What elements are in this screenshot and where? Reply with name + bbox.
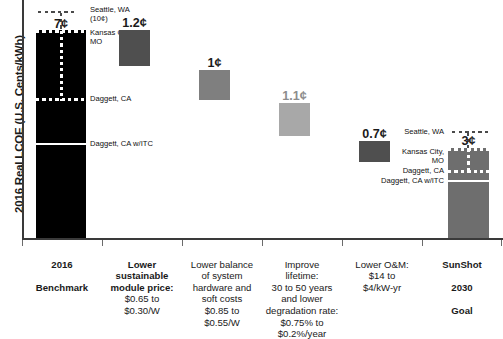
goal-marker-kansas-city: [448, 148, 489, 151]
category-module-price-body: $0.65 to $0.30/W: [124, 293, 160, 316]
x-axis-tick: [501, 240, 502, 246]
category-om-body: Lower O&M: $14 to $4/kW-yr: [355, 259, 408, 293]
value-label-module-price: 1.2¢: [109, 16, 160, 30]
category-benchmark-line2: Benchmark: [22, 282, 102, 294]
bar-lower-bos-soft-costs: [199, 70, 230, 100]
category-label-om: Lower O&M: $14 to $4/kW-yr: [342, 247, 422, 293]
value-label-benchmark: 7¢: [36, 17, 86, 31]
x-axis-tick: [262, 240, 263, 246]
value-label-lifetime: 1.1¢: [269, 89, 320, 103]
annotation-benchmark-daggett-itc: Daggett, CA w/ITC: [90, 139, 153, 148]
benchmark-marker-daggett-itc: [36, 143, 86, 145]
goal-marker-daggett: [448, 170, 489, 173]
annotation-goal-kansas-city: Kansas City, MO: [336, 147, 444, 165]
x-axis-tick: [342, 240, 343, 246]
category-label-bos: Lower balance of system hardware and sof…: [182, 247, 262, 328]
benchmark-marker-daggett: [36, 98, 86, 101]
bar-lower-module-price: [119, 30, 150, 66]
annotation-goal-seattle: Seattle, WA: [336, 127, 444, 136]
category-lifetime-body: Improve lifetime: 30 to 50 years and low…: [266, 259, 339, 339]
annotation-goal-daggett: Daggett, CA: [336, 166, 444, 175]
category-label-module-price: Lower sustainable module price: $0.65 to…: [102, 247, 182, 317]
x-axis-tick: [422, 240, 423, 246]
bar-improve-lifetime: [279, 103, 310, 136]
category-label-benchmark: 2016 Benchmark: [22, 247, 102, 305]
category-label-goal: SunShot 2030 Goal: [422, 247, 502, 328]
category-benchmark-line1: 2016: [22, 259, 102, 271]
x-axis-tick: [22, 240, 23, 246]
annotation-goal-daggett-itc: Daggett, CA w/ITC: [336, 176, 444, 185]
category-goal-line3: Goal: [422, 305, 502, 317]
value-label-goal: 3¢: [443, 134, 494, 148]
waterfall-chart: 2016 Real LCOE (U.S. Cents/kWh) 7¢ Seatt…: [0, 0, 503, 339]
category-module-price-head: Lower sustainable module price:: [111, 259, 174, 293]
benchmark-seattle-marker: [38, 11, 78, 13]
goal-marker-daggett-itc: [448, 180, 489, 182]
annotation-benchmark-daggett: Daggett, CA: [90, 94, 131, 103]
benchmark-error-bar: [60, 31, 63, 101]
x-axis-tick: [102, 240, 103, 246]
category-label-lifetime: Improve lifetime: 30 to 50 years and low…: [260, 247, 344, 339]
category-goal-line1: SunShot: [422, 259, 502, 271]
y-axis-line: [22, 0, 24, 239]
x-axis-tick: [182, 240, 183, 246]
category-goal-line2: 2030: [422, 282, 502, 294]
value-label-bos: 1¢: [189, 56, 240, 70]
category-bos-body: Lower balance of system hardware and sof…: [191, 259, 253, 328]
